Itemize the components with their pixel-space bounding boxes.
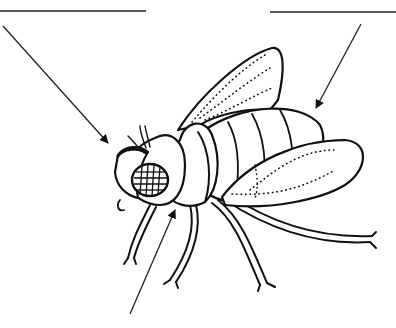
legs [124, 194, 376, 291]
head [115, 126, 185, 210]
arrow-to-abdomen [316, 24, 361, 108]
fly-labeling-diagram [0, 0, 396, 328]
arrow-to-head [3, 26, 108, 143]
arrow-to-thorax [130, 210, 175, 314]
